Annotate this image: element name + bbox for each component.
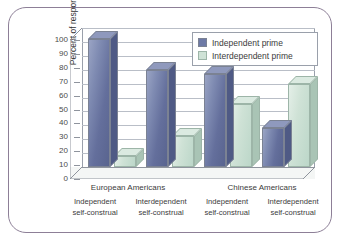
- y-tick-label: 100: [46, 36, 68, 44]
- y-tick-label: 10: [46, 161, 68, 169]
- bar-side-face: [226, 66, 234, 167]
- x-label-line1: Independent: [62, 197, 128, 208]
- bar-independent-prime-group4: [262, 128, 284, 167]
- bar-side-face: [168, 62, 176, 167]
- x-label-group1-interdependent: Interdependent self-construal: [128, 197, 194, 218]
- y-tick-label: 80: [46, 64, 68, 72]
- bar-independent-prime-group3: [204, 74, 226, 167]
- bar-front-face: [146, 70, 168, 167]
- bar-front-face: [88, 39, 110, 167]
- x-label-line2: self-construal: [128, 208, 194, 219]
- x-label-group1-independent: Independent self-construal: [62, 197, 128, 218]
- group-header-chinese-americans: Chinese Americans: [202, 183, 322, 192]
- y-tick-label: 40: [46, 119, 68, 127]
- y-tick-label: 0: [46, 175, 68, 183]
- x-label-line2: self-construal: [194, 208, 260, 219]
- bar-side-face: [310, 76, 318, 167]
- bar-front-face: [204, 74, 226, 167]
- x-label-line1: Interdependent: [260, 197, 326, 208]
- legend-swatch-icon: [198, 38, 207, 47]
- x-label-line2: self-construal: [62, 208, 128, 219]
- bar-independent-prime-group2: [146, 70, 168, 167]
- bar-side-face: [110, 31, 118, 167]
- legend-swatch-icon: [198, 51, 207, 60]
- y-tick-label: 60: [46, 92, 68, 100]
- y-tick-label: 20: [46, 147, 68, 155]
- bar-side-face: [284, 120, 292, 167]
- x-label-group2-interdependent: Interdependent self-construal: [260, 197, 326, 218]
- bar-front-face: [262, 128, 284, 167]
- x-label-group2-independent: Independent self-construal: [194, 197, 260, 218]
- legend-item-interdependent-prime: Interdependent prime: [198, 49, 313, 62]
- legend-item-independent-prime: Independent prime: [198, 36, 313, 49]
- legend-label: Interdependent prime: [212, 51, 293, 61]
- x-label-line1: Interdependent: [128, 197, 194, 208]
- y-tick-label: 30: [46, 133, 68, 141]
- legend-label: Independent prime: [212, 38, 283, 48]
- figure-container: Percent of responses 1009080706050403020…: [0, 0, 344, 242]
- x-label-line1: Independent: [194, 197, 260, 208]
- bar-independent-prime-group1: [88, 39, 110, 167]
- x-label-line2: self-construal: [260, 208, 326, 219]
- y-axis-ticks: 1009080706050403020100: [44, 28, 68, 179]
- y-tick-label: 70: [46, 78, 68, 86]
- bar-side-face: [252, 96, 260, 167]
- y-tick-mark: [74, 179, 80, 180]
- y-tick-label: 90: [46, 50, 68, 58]
- chart-legend: Independent prime Interdependent prime: [192, 32, 318, 66]
- y-tick-label: 50: [46, 106, 68, 114]
- x-axis-labels: European Americans Chinese Americans Ind…: [62, 183, 324, 235]
- group-header-european-americans: European Americans: [68, 183, 188, 192]
